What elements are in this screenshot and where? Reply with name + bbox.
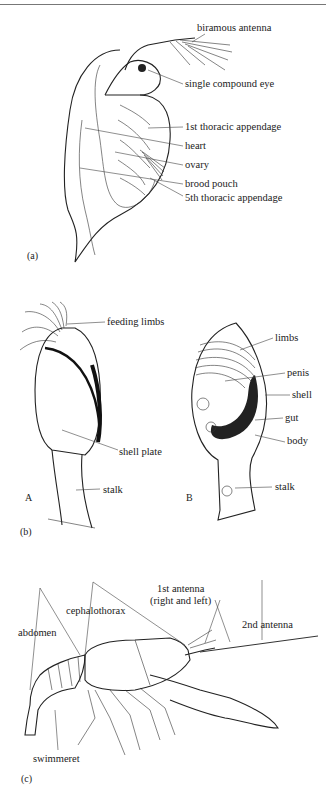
panel-tag-a: (a) [27, 250, 38, 261]
label-shell: shell [292, 390, 312, 401]
daphnia-illustration [0, 0, 333, 270]
label-swimmeret: swimmeret [33, 754, 80, 765]
label-biramous-antenna: biramous antenna [197, 23, 271, 34]
label-cephalothorax: cephalothorax [66, 606, 125, 617]
view-tag-b: B [186, 492, 193, 503]
label-gut: gut [285, 413, 298, 424]
label-heart: heart [185, 141, 206, 152]
label-1st-thoracic-appendage: 1st thoracic appendage [185, 122, 281, 133]
label-limbs: limbs [275, 333, 298, 344]
barnacle-illustration [0, 270, 333, 540]
label-right-and-left: (right and left) [150, 596, 211, 607]
view-tag-a: A [25, 492, 32, 503]
label-stalk-b: stalk [275, 482, 295, 493]
label-5th-thoracic-appendage: 5th thoracic appendage [185, 193, 282, 204]
label-abdomen: abdomen [18, 628, 57, 639]
label-feeding-limbs: feeding limbs [107, 317, 164, 328]
panel-tag-b: (b) [20, 526, 32, 537]
label-1st-antenna: 1st antenna [157, 584, 205, 595]
panel-tag-c: (c) [21, 773, 32, 784]
label-single-compound-eye: single compound eye [185, 79, 274, 90]
label-brood-pouch: brood pouch [185, 179, 238, 190]
label-ovary: ovary [185, 160, 209, 171]
label-body: body [287, 436, 308, 447]
label-stalk-a: stalk [103, 485, 123, 496]
label-shell-plate: shell plate [119, 447, 162, 458]
label-2nd-antenna: 2nd antenna [242, 620, 293, 631]
label-penis: penis [287, 368, 309, 379]
